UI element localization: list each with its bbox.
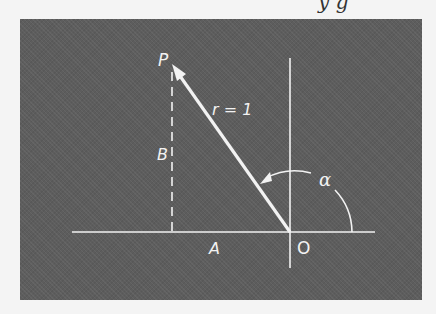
unit-circle-diagram xyxy=(0,0,436,314)
angle-arc-upper xyxy=(266,171,311,178)
label-angle-alpha: α xyxy=(319,171,331,189)
radius-arrowhead-icon xyxy=(172,64,186,81)
label-origin: O xyxy=(297,240,310,257)
label-vertical-leg: B xyxy=(157,147,168,163)
label-point-p: P xyxy=(158,52,168,69)
angle-arrowhead-icon xyxy=(260,172,272,184)
label-horizontal-leg: A xyxy=(209,241,220,257)
label-radius: r = 1 xyxy=(212,102,252,118)
angle-arc xyxy=(335,190,352,232)
